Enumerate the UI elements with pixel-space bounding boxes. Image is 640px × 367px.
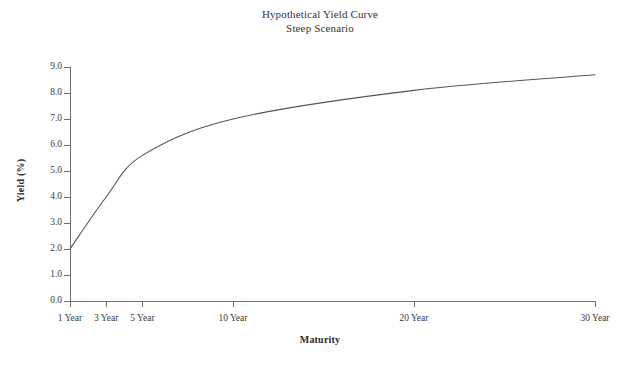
y-tick-label: 0.0	[18, 296, 62, 305]
x-tick-5-year	[142, 302, 143, 307]
y-tick-label: 1.0	[18, 270, 62, 279]
x-axis-title: Maturity	[0, 334, 640, 345]
x-axis-line	[70, 301, 596, 302]
x-tick-20-year	[414, 302, 415, 307]
x-tick-label: 30 Year	[560, 313, 630, 324]
y-tick-label: 2.0	[18, 244, 62, 253]
y-tick-label: 7.0	[18, 114, 62, 123]
chart-title-block: Hypothetical Yield Curve Steep Scenario	[0, 7, 640, 35]
curve-path	[70, 75, 595, 249]
yield-curve-line	[70, 67, 595, 301]
x-tick-3-year	[106, 302, 107, 307]
x-tick-1-year	[70, 302, 71, 307]
chart-title: Hypothetical Yield Curve	[0, 7, 640, 21]
y-tick-label: 8.0	[18, 88, 62, 97]
x-tick-label: 5 Year	[107, 313, 177, 324]
x-tick-30-year	[595, 302, 596, 307]
y-tick-label: 9.0	[18, 62, 62, 71]
y-axis-title: Yield (%)	[15, 136, 26, 226]
yield-curve-figure: Hypothetical Yield Curve Steep Scenario …	[0, 0, 640, 367]
x-tick-label: 20 Year	[379, 313, 449, 324]
x-tick-10-year	[233, 302, 234, 307]
chart-subtitle: Steep Scenario	[0, 21, 640, 35]
plot-area	[70, 67, 595, 301]
x-tick-label: 10 Year	[198, 313, 268, 324]
